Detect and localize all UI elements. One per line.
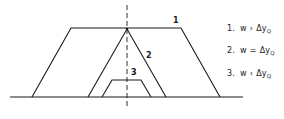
legend-item-2: 2.w=ΔyQ bbox=[227, 46, 275, 56]
legend-item-3: 3.w‹ΔyQ bbox=[227, 69, 271, 79]
apex-point bbox=[126, 28, 129, 31]
trapezoid-1 bbox=[32, 28, 220, 97]
legend-item-1: 1.w›ΔyQ bbox=[227, 24, 271, 34]
shape-label-1: 1 bbox=[173, 16, 179, 25]
trapezoid-3 bbox=[102, 80, 151, 97]
shape-label-2: 2 bbox=[146, 51, 152, 60]
shape-label-3: 3 bbox=[131, 68, 137, 77]
diagram-canvas bbox=[0, 0, 284, 119]
